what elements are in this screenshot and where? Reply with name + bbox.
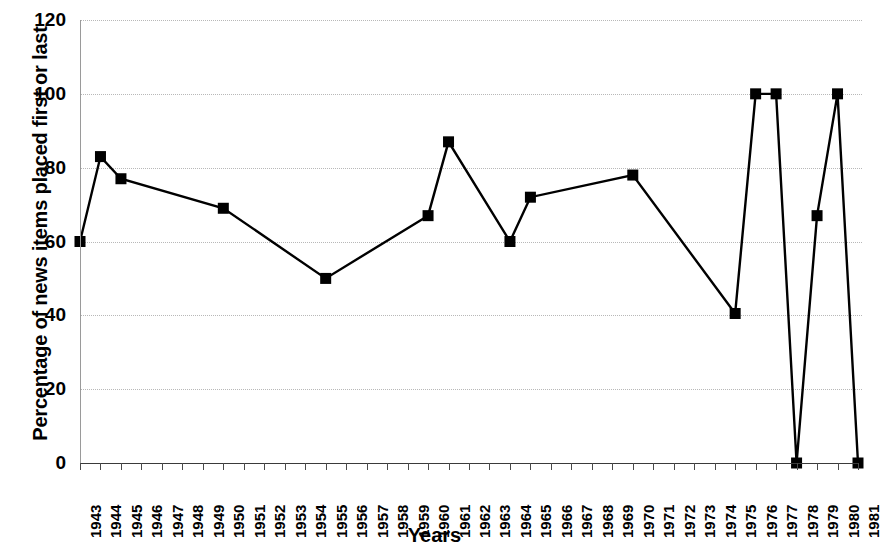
x-tick-mark-1978 [797,463,798,470]
x-tick-mark-1971 [653,463,654,470]
x-tick-mark-1950 [223,463,224,470]
x-tick-mark-1945 [121,463,122,470]
x-tick-mark-1956 [346,463,347,470]
x-tick-mark-1961 [449,463,450,470]
x-tick-mark-1974 [715,463,716,470]
x-tick-mark-1964 [510,463,511,470]
x-tick-mark-1954 [305,463,306,470]
x-tick-mark-1981 [858,463,859,470]
x-tick-mark-1963 [489,463,490,470]
x-tick-mark-1980 [838,463,839,470]
x-tick-mark-1947 [162,463,163,470]
x-tick-mark-1965 [530,463,531,470]
x-tick-mark-1955 [326,463,327,470]
x-tick-mark-1959 [408,463,409,470]
x-tick-mark-1946 [141,463,142,470]
x-tick-mark-1952 [264,463,265,470]
x-tick-mark-1967 [571,463,572,470]
x-tick-mark-1973 [694,463,695,470]
x-tick-mark-1944 [100,463,101,470]
x-tick-mark-1960 [428,463,429,470]
x-tick-mark-1962 [469,463,470,470]
x-tick-mark-1957 [367,463,368,470]
x-tick-mark-1948 [182,463,183,470]
x-tick-mark-1966 [551,463,552,470]
x-tick-mark-1953 [285,463,286,470]
x-tick-mark-1949 [203,463,204,470]
x-tick-mark-1951 [244,463,245,470]
x-tick-mark-1975 [735,463,736,470]
x-tick-mark-1968 [592,463,593,470]
x-axis-title: Years [0,524,869,547]
x-tick-mark-1970 [633,463,634,470]
x-tick-mark-1958 [387,463,388,470]
x-tick-mark-1972 [674,463,675,470]
x-tick-mark-1979 [817,463,818,470]
x-tick-mark-1943 [80,463,81,470]
x-tick-mark-1976 [756,463,757,470]
x-tick-mark-1977 [776,463,777,470]
x-tick-mark-1969 [612,463,613,470]
